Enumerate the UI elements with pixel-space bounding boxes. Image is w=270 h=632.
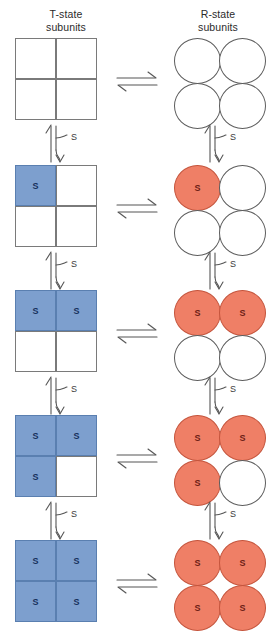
substrate-label: S — [220, 433, 265, 443]
substrate-label: S — [220, 558, 265, 568]
column-header-r-state: R-state subunits — [168, 8, 268, 33]
substrate-label: S — [57, 556, 97, 566]
subunit-square-bottom-right-empty — [56, 79, 98, 121]
subunit-circle-top-left-bound: S — [174, 540, 221, 586]
subunit-circle-top-right-empty — [219, 38, 266, 84]
substrate-label: S — [175, 603, 220, 613]
equilibrium-arrow-icon-vertical-left-between-row-3-and-4: S — [44, 501, 90, 541]
substrate-arrow-label: S — [71, 132, 77, 142]
subunit-square-bottom-left-empty — [15, 206, 57, 248]
substrate-label: S — [175, 183, 220, 193]
tetramer-r-state-2-bound: SS — [174, 290, 266, 381]
subunit-circle-top-right-bound: S — [219, 415, 266, 461]
subunit-square-top-right-empty — [56, 38, 98, 80]
subunit-circle-bottom-left-bound: S — [174, 585, 221, 631]
substrate-arrow-label: S — [230, 384, 236, 394]
substrate-label: S — [16, 472, 56, 482]
tetramer-t-state-4-bound: SSSS — [15, 540, 97, 622]
substrate-label: S — [220, 308, 265, 318]
subunit-square-top-left-bound: S — [15, 165, 57, 207]
equilibrium-arrow-icon-vertical-right-between-row-1-and-2: S — [203, 251, 249, 291]
subunit-square-bottom-right-empty — [56, 331, 98, 373]
equilibrium-arrow-icon-vertical-right-between-row-2-and-3: S — [203, 376, 249, 416]
subunit-circle-bottom-left-bound: S — [174, 460, 221, 506]
subunit-square-top-left-bound: S — [15, 415, 57, 457]
subunit-circle-top-left-bound: S — [174, 290, 221, 336]
equilibrium-arrow-icon-vertical-left-between-row-2-and-3: S — [44, 376, 90, 416]
subunit-square-top-left-bound: S — [15, 290, 57, 332]
subunit-square-top-right-bound: S — [56, 415, 98, 457]
equilibrium-arrow-icon-vertical-left-between-row-0-and-1: S — [44, 124, 90, 164]
subunit-circle-bottom-left-empty — [174, 210, 221, 256]
equilibrium-arrow-icon-horizontal-row-4 — [115, 570, 159, 596]
subunit-square-bottom-left-empty — [15, 79, 57, 121]
tetramer-r-state-1-bound: S — [174, 165, 266, 256]
subunit-square-bottom-left-bound: S — [15, 456, 57, 498]
tetramer-r-state-3-bound: SSS — [174, 415, 266, 506]
subunit-square-top-left-bound: S — [15, 540, 57, 582]
subunit-circle-bottom-right-empty — [219, 460, 266, 506]
tetramer-t-state-2-bound: SS — [15, 290, 97, 372]
equilibrium-arrow-icon-vertical-left-between-row-1-and-2: S — [44, 251, 90, 291]
subunit-circle-top-right-empty — [219, 165, 266, 211]
subunit-square-bottom-right-empty — [56, 206, 98, 248]
substrate-label: S — [57, 597, 97, 607]
substrate-label: S — [16, 431, 56, 441]
subunit-circle-top-left-bound: S — [174, 415, 221, 461]
subunit-circle-top-left-bound: S — [174, 165, 221, 211]
subunit-square-top-right-bound: S — [56, 540, 98, 582]
subunit-square-bottom-right-empty — [56, 456, 98, 498]
substrate-arrow-label: S — [230, 259, 236, 269]
substrate-label: S — [16, 306, 56, 316]
equilibrium-arrow-icon-vertical-right-between-row-3-and-4: S — [203, 501, 249, 541]
subunit-square-top-right-empty — [56, 165, 98, 207]
tetramer-t-state-0-bound — [15, 38, 97, 120]
tetramer-r-state-4-bound: SSSS — [174, 540, 266, 631]
subunit-square-bottom-left-empty — [15, 331, 57, 373]
subunit-circle-top-right-bound: S — [219, 540, 266, 586]
subunit-circle-bottom-right-empty — [219, 83, 266, 129]
column-header-t-state: T-state subunits — [12, 8, 120, 33]
subunit-circle-bottom-left-empty — [174, 83, 221, 129]
substrate-label: S — [16, 556, 56, 566]
substrate-arrow-label: S — [230, 509, 236, 519]
substrate-label: S — [16, 597, 56, 607]
substrate-label: S — [57, 431, 97, 441]
tetramer-t-state-1-bound: S — [15, 165, 97, 247]
subunit-square-bottom-right-bound: S — [56, 581, 98, 623]
equilibrium-arrow-icon-horizontal-row-1 — [115, 195, 159, 221]
equilibrium-arrow-icon-horizontal-row-0 — [115, 68, 159, 94]
equilibrium-arrow-icon-horizontal-row-3 — [115, 445, 159, 471]
subunit-circle-bottom-left-empty — [174, 335, 221, 381]
subunit-square-top-left-empty — [15, 38, 57, 80]
substrate-label: S — [16, 181, 56, 191]
substrate-arrow-label: S — [71, 384, 77, 394]
substrate-label: S — [57, 306, 97, 316]
equilibrium-arrow-icon-horizontal-row-2 — [115, 320, 159, 346]
substrate-label: S — [175, 558, 220, 568]
substrate-label: S — [220, 603, 265, 613]
substrate-label: S — [175, 433, 220, 443]
subunit-circle-top-right-bound: S — [219, 290, 266, 336]
subunit-circle-bottom-right-empty — [219, 210, 266, 256]
allosteric-binding-diagram: T-state subunits R-state subunits S SSS — [0, 0, 270, 632]
subunit-circle-bottom-right-bound: S — [219, 585, 266, 631]
substrate-arrow-label: S — [71, 509, 77, 519]
subunit-square-bottom-left-bound: S — [15, 581, 57, 623]
substrate-label: S — [175, 478, 220, 488]
tetramer-t-state-3-bound: SSS — [15, 415, 97, 497]
equilibrium-arrow-icon-vertical-right-between-row-0-and-1: S — [203, 124, 249, 164]
substrate-arrow-label: S — [230, 132, 236, 142]
tetramer-r-state-0-bound — [174, 38, 266, 129]
substrate-arrow-label: S — [71, 259, 77, 269]
subunit-circle-bottom-right-empty — [219, 335, 266, 381]
subunit-circle-top-left-empty — [174, 38, 221, 84]
subunit-square-top-right-bound: S — [56, 290, 98, 332]
substrate-label: S — [175, 308, 220, 318]
